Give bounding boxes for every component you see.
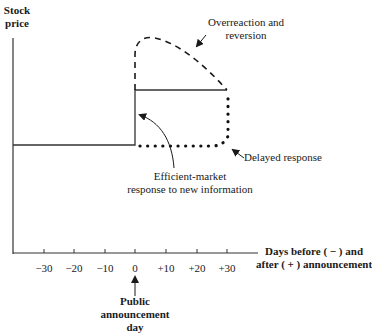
efficient-label-line: Efficient-market <box>120 170 260 183</box>
tick-label: +20 <box>188 262 205 274</box>
delayed-response-curve <box>140 92 228 146</box>
efficient-arrow <box>140 115 174 168</box>
announcement-label-line: Public <box>95 295 175 308</box>
chart-canvas <box>0 0 372 334</box>
announcement-label-line: announcement <box>95 308 175 321</box>
efficient-market-label: Efficient-market response to new informa… <box>120 170 260 196</box>
tick-label: +30 <box>218 262 235 274</box>
tick-label: −20 <box>65 262 82 274</box>
tick-label: −10 <box>96 262 113 274</box>
delayed-arrow <box>233 150 244 158</box>
overreaction-label-line: reversion <box>186 29 306 42</box>
overreaction-curve <box>135 38 227 90</box>
overreaction-label: Overreaction and reversion <box>186 16 306 42</box>
x-axis-label-line: Days before ( − ) and <box>256 245 372 258</box>
delayed-response-label: Delayed response <box>244 151 322 164</box>
tick-label: −30 <box>35 262 52 274</box>
y-axis-label-line: price <box>0 17 34 30</box>
y-axis-label-line: Stock <box>0 4 34 17</box>
y-axis-label: Stock price <box>0 4 34 30</box>
overreaction-label-line: Overreaction and <box>186 16 306 29</box>
x-axis-label: Days before ( − ) and after ( + ) announ… <box>256 245 372 271</box>
efficient-market-line <box>13 90 227 145</box>
x-axis-label-line: after ( + ) announcement <box>256 258 372 271</box>
tick-label: 0 <box>132 262 138 274</box>
efficient-label-line: response to new information <box>120 183 260 196</box>
announcement-label-line: day <box>95 321 175 334</box>
announcement-day-label: Public announcement day <box>95 295 175 334</box>
tick-label: +10 <box>157 262 174 274</box>
